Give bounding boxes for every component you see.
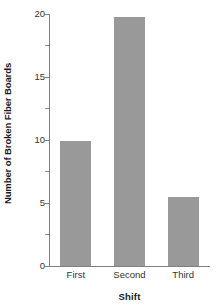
bar-chart: Number of Broken Fiber Boards 20 15 10 5…: [0, 0, 218, 306]
y-tick-label: 20: [21, 9, 45, 19]
y-tick-label: 15: [21, 72, 45, 82]
bar-third: [168, 197, 199, 266]
x-tick-label-group: First Second Third: [49, 270, 210, 284]
y-tick-label-group: 20 15 10 5 0: [18, 0, 45, 306]
y-axis-title: Number of Broken Fiber Boards: [0, 0, 16, 266]
plot-area: [49, 14, 210, 266]
y-tick-label: 5: [21, 198, 45, 208]
y-tick-label: 10: [21, 135, 45, 145]
x-tick-label: First: [49, 270, 103, 280]
x-tick-label: Second: [103, 270, 157, 280]
x-axis-line: [49, 266, 210, 267]
x-axis-title: Shift: [49, 291, 210, 302]
y-axis-title-text: Number of Broken Fiber Boards: [3, 62, 14, 203]
bar-first: [60, 141, 91, 266]
bar-second: [114, 17, 145, 266]
x-tick-label: Third: [156, 270, 210, 280]
y-tick-label: 0: [21, 261, 45, 271]
